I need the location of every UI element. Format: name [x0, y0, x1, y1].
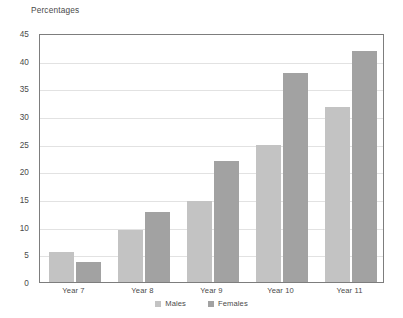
- x-tick-label: Year 11: [336, 286, 362, 295]
- y-tick-label: 30: [20, 113, 29, 122]
- bar-females-year-11: [352, 51, 377, 282]
- x-tick-label: Year 10: [267, 286, 294, 295]
- y-tick-label: 25: [20, 140, 29, 149]
- bar-males-year-10: [256, 145, 281, 282]
- x-tick-label: Year 9: [200, 286, 222, 295]
- y-tick-label: 20: [20, 168, 29, 177]
- bars-layer: [40, 35, 383, 282]
- x-tick-label: Year 8: [131, 286, 153, 295]
- chart-legend: MalesFemales: [0, 299, 403, 308]
- chart-title: Percentages: [31, 5, 79, 15]
- bar-females-year-10: [283, 73, 308, 282]
- y-axis: 051015202530354045: [0, 34, 34, 283]
- bar-chart: Percentages 051015202530354045 Year 7Yea…: [0, 0, 403, 318]
- bar-males-year-11: [325, 107, 350, 282]
- bar-females-year-9: [214, 161, 239, 282]
- y-tick-label: 45: [20, 30, 29, 39]
- bar-females-year-7: [76, 262, 101, 282]
- bar-males-year-8: [118, 230, 143, 282]
- legend-swatch-icon: [208, 301, 214, 307]
- legend-swatch-icon: [155, 301, 161, 307]
- legend-label: Females: [218, 299, 248, 308]
- y-tick-label: 40: [20, 57, 29, 66]
- legend-item-males[interactable]: Males: [155, 299, 186, 308]
- y-tick-label: 35: [20, 85, 29, 94]
- y-tick-label: 15: [20, 196, 29, 205]
- legend-label: Males: [165, 299, 186, 308]
- bar-females-year-8: [145, 212, 170, 282]
- bar-males-year-9: [187, 201, 212, 282]
- plot-area: [39, 34, 384, 283]
- y-tick-label: 10: [20, 223, 29, 232]
- x-axis: Year 7Year 8Year 9Year 10Year 11: [39, 286, 384, 300]
- bar-males-year-7: [49, 252, 74, 282]
- legend-item-females[interactable]: Females: [208, 299, 248, 308]
- y-tick-label: 5: [24, 251, 29, 260]
- y-tick-label: 0: [24, 279, 29, 288]
- x-tick-label: Year 7: [62, 286, 84, 295]
